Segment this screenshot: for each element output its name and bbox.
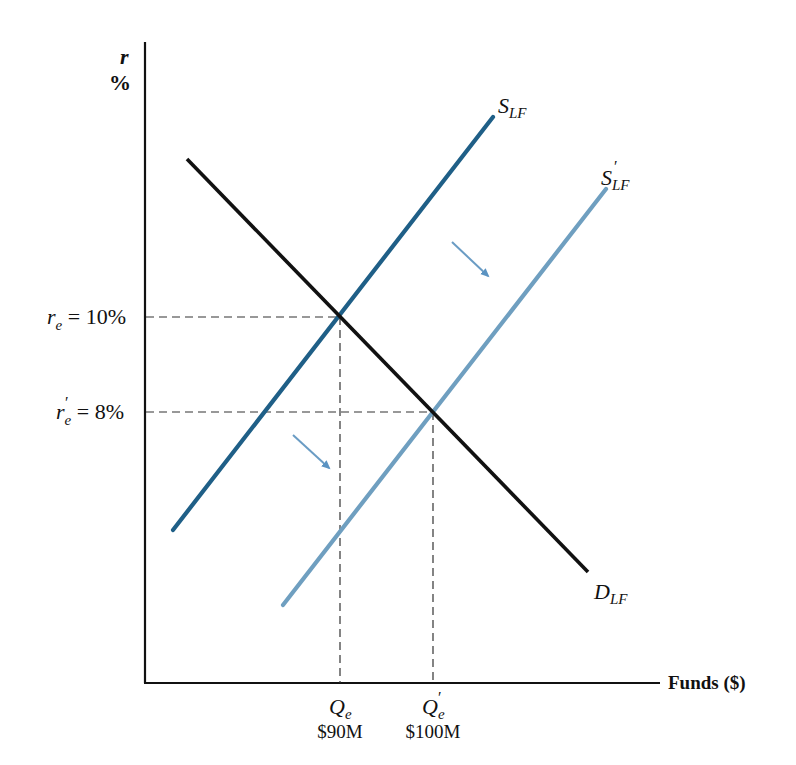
y-axis-label-r: r — [120, 44, 129, 69]
shift-arrow-icon-upper — [452, 242, 488, 276]
label-s-prime-mark: ′ — [614, 158, 618, 175]
loanable-funds-chart: r % Funds ($) SLF SLF ′ DLF re = 10% re … — [0, 0, 796, 765]
tick-value-qe: $90M — [317, 721, 363, 742]
x-axis-label: Funds ($) — [668, 672, 746, 694]
label-s-lf: SLF — [498, 93, 527, 121]
tick-label-re: re = 10% — [47, 304, 126, 333]
supply-curve-s-lf — [173, 117, 493, 530]
tick-label-re-prime-mark: ′ — [65, 394, 69, 411]
tick-label-qe-prime-mark: ′ — [438, 689, 442, 706]
tick-value-qe-prime: $100M — [406, 721, 461, 742]
shift-arrow-icon-lower — [293, 435, 329, 468]
label-d-lf: DLF — [593, 579, 628, 607]
y-axis-label-percent: % — [109, 70, 131, 95]
tick-label-qe: Qe — [329, 694, 352, 722]
demand-curve-d-lf — [187, 159, 588, 572]
